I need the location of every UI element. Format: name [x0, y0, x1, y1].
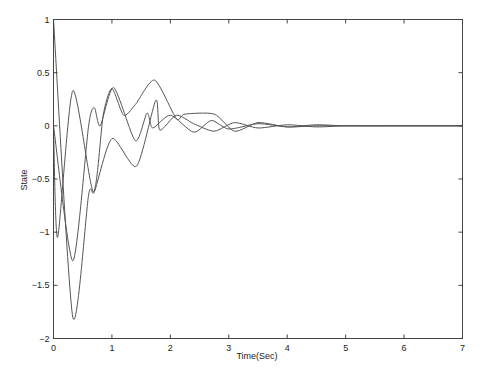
y-tick-label: −1 — [39, 227, 49, 237]
line-chart: 0123456710.50−0.5−1−1.5−2 Time(Sec) Stat… — [0, 0, 484, 379]
series-line-state-1 — [54, 20, 463, 320]
y-tick-label: 0 — [44, 121, 49, 131]
plot-frame — [54, 20, 463, 339]
series-line-state-3 — [54, 88, 463, 261]
series-line-state-2 — [54, 80, 463, 238]
y-tick-label: 0.5 — [37, 68, 50, 78]
y-axis-label: State — [19, 169, 29, 190]
y-tick-label: −2 — [39, 334, 49, 344]
x-tick-label: 7 — [460, 343, 465, 353]
y-tick-label: −0.5 — [32, 174, 50, 184]
x-tick-label: 2 — [168, 343, 173, 353]
x-axis-label: Time(Sec) — [236, 351, 277, 361]
chart-svg: 0123456710.50−0.5−1−1.5−2 Time(Sec) Stat… — [0, 0, 484, 379]
y-tick-label: 1 — [44, 15, 49, 25]
x-tick-label: 4 — [285, 343, 290, 353]
x-tick-label: 0 — [51, 343, 56, 353]
x-tick-label: 3 — [226, 343, 231, 353]
x-tick-label: 5 — [343, 343, 348, 353]
y-tick-label: −1.5 — [32, 280, 50, 290]
series-lines — [54, 20, 463, 320]
x-tick-label: 6 — [402, 343, 407, 353]
x-tick-label: 1 — [109, 343, 114, 353]
